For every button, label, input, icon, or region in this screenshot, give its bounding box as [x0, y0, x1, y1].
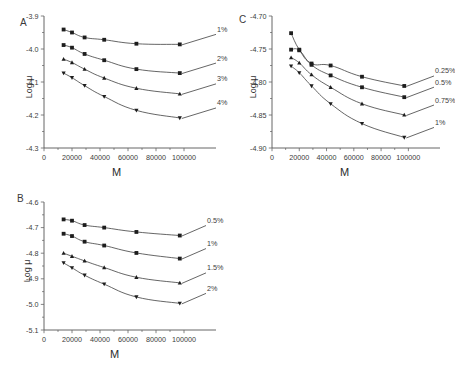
series-curve [291, 66, 404, 137]
series-label: 1% [435, 118, 446, 127]
series-label: 3% [217, 74, 228, 83]
data-point-marker [83, 36, 87, 40]
data-point-marker [102, 226, 106, 230]
x-tick-label: 80000 [146, 335, 166, 344]
data-point-marker [289, 55, 293, 59]
series-curve [64, 45, 180, 73]
data-point-marker [178, 257, 182, 261]
plot-area-b: -4.6-4.7-4.8-4.9-5.0-5.10200004000060000… [0, 180, 235, 370]
series-curve [291, 49, 404, 97]
data-point-marker [178, 234, 182, 238]
data-point-marker [62, 218, 66, 222]
data-point-marker [178, 302, 182, 306]
series-curve [64, 59, 180, 94]
series-label: 0.75% [435, 96, 455, 105]
data-point-marker [102, 244, 106, 248]
x-tick-label: 0 [42, 153, 46, 162]
chart-panel-b: B Log μ M -4.6-4.7-4.8-4.9-5.0-5.1020000… [0, 180, 235, 370]
data-point-marker [178, 42, 182, 46]
y-tick-label: -4.6 [26, 198, 38, 207]
series-curve [64, 263, 180, 303]
y-tick-label: -4.1 [26, 78, 38, 87]
data-point-marker [135, 67, 139, 71]
series-label: 1% [207, 239, 218, 248]
y-tick-label: -3.9 [26, 12, 38, 21]
x-tick-label: 60000 [344, 153, 364, 162]
data-point-marker [289, 65, 293, 69]
x-tick-label: 0 [42, 335, 46, 344]
data-point-marker [329, 85, 333, 89]
series-label: 1% [217, 25, 228, 34]
data-point-marker [360, 85, 364, 89]
series-curve [64, 219, 180, 235]
data-point-marker [135, 42, 139, 46]
chart-panel-c: C Log μ M -4.70-4.75-4.80-4.85-4.9002000… [232, 0, 455, 190]
data-point-marker [83, 84, 87, 88]
data-point-marker [83, 240, 87, 244]
data-point-marker [135, 251, 139, 255]
data-point-marker [70, 31, 74, 35]
data-point-marker [329, 74, 333, 78]
chart-panel-a: A Log μ M -3.9-4.0-4.1-4.2-4.30200004000… [0, 0, 235, 190]
x-tick-label: 20000 [62, 335, 82, 344]
data-point-marker [135, 230, 139, 234]
data-point-marker [178, 116, 182, 120]
x-tick-label: 20000 [62, 153, 82, 162]
data-point-marker [70, 234, 74, 238]
data-point-marker [402, 84, 406, 88]
series-curve [291, 33, 404, 86]
data-point-marker [62, 251, 66, 255]
data-point-marker [402, 136, 406, 140]
y-tick-label: -4.9 [26, 274, 38, 283]
x-tick-label: 40000 [90, 153, 110, 162]
data-point-marker [62, 232, 66, 236]
x-tick-label: 60000 [118, 153, 138, 162]
series-label: 2% [217, 54, 228, 63]
data-point-marker [289, 31, 293, 35]
y-tick-label: -4.75 [250, 45, 266, 54]
data-point-marker [62, 57, 66, 61]
series-curve [64, 253, 180, 283]
x-tick-label: 0 [270, 153, 274, 162]
y-tick-label: -4.3 [26, 144, 38, 153]
data-point-marker [70, 219, 74, 223]
y-tick-label: -5.0 [26, 300, 38, 309]
x-tick-label: 80000 [371, 153, 391, 162]
data-point-marker [83, 223, 87, 227]
series-curve [64, 73, 180, 118]
series-label: 1.5% [207, 263, 224, 272]
series-curve [64, 234, 180, 259]
series-curve [291, 58, 404, 115]
y-tick-label: -4.80 [250, 78, 266, 87]
y-tick-label: -4.7 [26, 223, 38, 232]
data-point-marker [102, 58, 106, 62]
data-point-marker [289, 48, 293, 52]
series-label: 0.25% [435, 66, 455, 75]
y-tick-label: -5.1 [26, 326, 38, 335]
data-point-marker [178, 71, 182, 75]
x-tick-label: 100000 [172, 335, 196, 344]
data-point-marker [360, 75, 364, 79]
x-tick-label: 60000 [118, 335, 138, 344]
data-point-marker [62, 43, 66, 47]
series-label: 0.5% [207, 216, 224, 225]
x-tick-label: 100000 [172, 153, 196, 162]
data-point-marker [70, 46, 74, 50]
y-tick-label: -4.70 [250, 12, 266, 21]
y-tick-label: -4.2 [26, 111, 38, 120]
y-tick-label: -4.85 [250, 111, 266, 120]
data-point-marker [62, 71, 66, 75]
series-label: 4% [217, 98, 228, 107]
data-point-marker [62, 261, 66, 265]
x-tick-label: 40000 [90, 335, 110, 344]
series-label: 0.5% [435, 78, 452, 87]
data-point-marker [329, 64, 333, 68]
data-point-marker [402, 95, 406, 99]
data-point-marker [70, 76, 74, 80]
data-point-marker [62, 28, 66, 32]
plot-area-a: -3.9-4.0-4.1-4.2-4.302000040000600008000… [0, 0, 235, 190]
x-tick-label: 20000 [289, 153, 309, 162]
y-tick-label: -4.90 [250, 144, 266, 153]
data-point-marker [102, 38, 106, 42]
series-curve [64, 30, 180, 45]
